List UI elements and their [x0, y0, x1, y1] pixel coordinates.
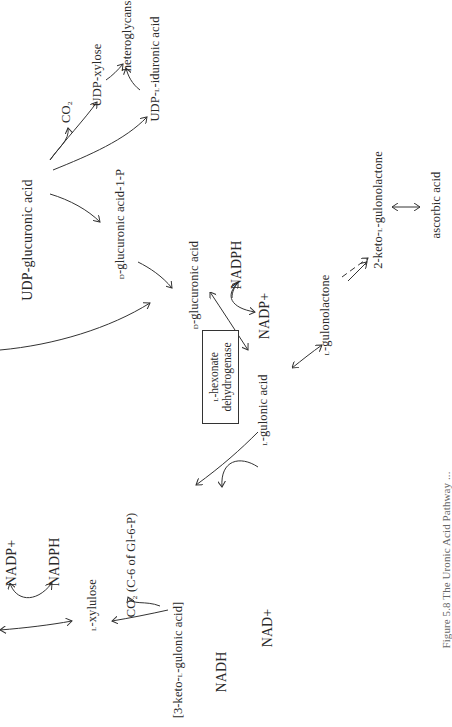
- label-stereo: l: [173, 673, 184, 677]
- label-suffix: -gulonic acid: [256, 374, 270, 441]
- label-suffix: -hexonate: [207, 352, 219, 397]
- node-3-keto-l-gulonic-acid: [3-keto-l-gulonic acid]: [172, 602, 185, 719]
- arrow-udpglc-to-udpxylose: [50, 102, 97, 160]
- arrow-udpglc-to-udpiduronic: [53, 117, 147, 170]
- arrow-udpglc-to-dglc1p: [50, 194, 100, 222]
- node-nadph-mid: NADPH: [230, 241, 244, 290]
- figure-caption: Figure 5.8 The Uronic Acid Pathway ...: [441, 471, 452, 648]
- arrow-dglc1p-to-dglc: [138, 262, 172, 288]
- label-stereo: d: [189, 324, 200, 329]
- label-stereo: l: [87, 627, 98, 631]
- label-suffix: -iduronic acid: [148, 16, 162, 87]
- label-suffix: -xylulose: [85, 579, 99, 626]
- label-stereo: d: [115, 274, 126, 279]
- node-l-xylulose: l-xylulose: [86, 579, 99, 631]
- label-suffix: -gulonolactone: [371, 151, 385, 227]
- label-suffix: -glucuronic acid-1-P: [113, 169, 127, 274]
- node-l-gulonic-acid: l-gulonic acid: [257, 374, 270, 445]
- node-nadh: NADH: [215, 652, 229, 693]
- node-udp-xylose: UDP-xylose: [91, 44, 104, 107]
- label-prefix: [3-keto-: [171, 677, 185, 718]
- node-udp-glucuronic-acid: UDP-glucuronic acid: [21, 179, 35, 300]
- arrow-nad-to-nadh: [222, 461, 258, 487]
- arrow-lgulonolactone-2keto-solid: [348, 262, 367, 281]
- label-prefix: UDP-: [148, 92, 162, 122]
- node-2-keto-l-gulonolactone: 2-keto-l-gulonolactone: [372, 151, 385, 269]
- label-suffix: -gulonic acid]: [171, 602, 185, 673]
- node-nadp-plus-mid: NADP+: [258, 293, 272, 340]
- node-l-gulonolactone: l-gulonolactone: [319, 275, 332, 356]
- label-stereo: l: [209, 398, 219, 402]
- label-prefix: 2-keto-: [371, 232, 385, 269]
- node-heteroglycans: heteroglycans: [121, 1, 134, 72]
- enzyme-box-l-hexonate-dehydrogenase: l-hexonate dehydrogenase: [202, 330, 239, 424]
- node-nadph-bottom: NADPH: [48, 538, 62, 587]
- node-ascorbic-acid: ascorbic acid: [430, 172, 443, 239]
- node-nad-plus: NAD+: [261, 609, 275, 648]
- node-nadp-plus-bottom: NADP+: [5, 540, 19, 587]
- arrow-lgulonic-to-3keto: [196, 432, 258, 485]
- enzyme-line-1: l-hexonate: [207, 343, 220, 412]
- node-udp-l-iduronic-acid: UDP-l-iduronic acid: [149, 16, 162, 121]
- enzyme-label: l-hexonate dehydrogenase: [207, 343, 233, 412]
- label-stereo: l: [320, 351, 331, 355]
- node-co2-c6-of-gl-6-p: CO₂ (C-6 of Gl-6-P): [125, 513, 138, 618]
- label-suffix: -glucuronic acid: [187, 241, 201, 324]
- label-suffix: -gulonolactone: [318, 275, 332, 351]
- enzyme-line-2: dehydrogenase: [221, 343, 234, 412]
- label-stereo: l: [150, 88, 161, 92]
- arrow-long-curve-to-dglc: [0, 303, 150, 350]
- arrow-udpglc-to-co2: [50, 128, 68, 160]
- label-stereo: l: [258, 441, 269, 445]
- arrow-3keto-to-lxylulose: [112, 610, 168, 621]
- node-co2-top: CO₂: [60, 101, 73, 123]
- node-d-glucuronic-acid-1-p: d-glucuronic acid-1-P: [114, 169, 127, 279]
- node-d-glucuronic-acid: d-glucuronic acid: [188, 241, 201, 329]
- label-stereo: l: [373, 228, 384, 232]
- arrow-lxylulose-double: [0, 621, 72, 630]
